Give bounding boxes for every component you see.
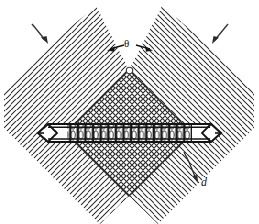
spacing-label-d: d bbox=[201, 176, 207, 188]
angle-label-theta: θ bbox=[124, 38, 129, 49]
diagram-canvas bbox=[0, 0, 259, 224]
diagram-figure: θ d bbox=[0, 0, 259, 224]
apex-vertex-marker bbox=[126, 67, 132, 73]
incoming-arrow-right bbox=[212, 24, 228, 44]
horizontal-striated-bar bbox=[38, 124, 221, 142]
incoming-arrow-left bbox=[32, 24, 48, 44]
